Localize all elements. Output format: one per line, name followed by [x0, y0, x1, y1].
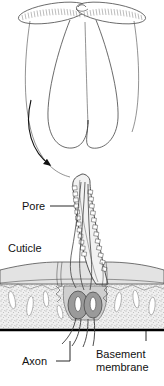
diagram-canvas: Pore Cuticle Axon Basement membrane: [0, 0, 164, 386]
neuron-cell-bodies: [68, 291, 102, 319]
label-basement-membrane-line1: Basement: [96, 348, 146, 360]
nucleus-right: [90, 297, 96, 311]
antenna-ramus-left: [48, 20, 88, 148]
label-cuticle: Cuticle: [8, 242, 42, 254]
cuticle-layer: [0, 262, 164, 284]
label-axon: Axon: [22, 355, 47, 367]
nucleus-left: [75, 297, 81, 312]
label-basement-membrane-line2: membrane: [96, 361, 149, 373]
antenna-ramus-right: [87, 20, 118, 148]
plumose-branch-left: [17, 0, 89, 28]
branch-outline-right: [75, 0, 147, 28]
axon-leader-line: [56, 341, 70, 361]
antenna-outer-line-right: [132, 21, 139, 132]
plumose-branch-right: [75, 0, 147, 28]
antenna-sensillum-figure: Pore Cuticle Axon Basement membrane: [0, 0, 164, 386]
label-pore: Pore: [22, 200, 45, 212]
